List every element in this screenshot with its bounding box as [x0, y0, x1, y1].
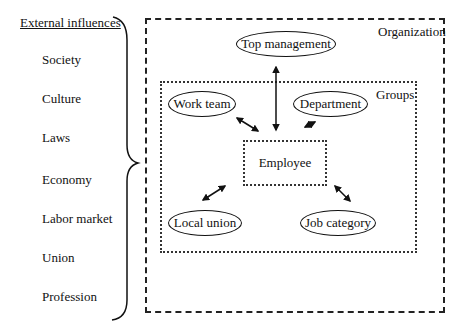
connectors [0, 0, 467, 327]
brace-icon [112, 17, 138, 320]
